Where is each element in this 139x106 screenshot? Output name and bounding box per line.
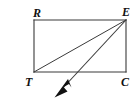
vertex-label-t: T [25, 76, 32, 88]
figure-drawing [0, 0, 139, 106]
vertex-label-r: R [33, 7, 41, 19]
vertex-label-e: E [122, 6, 130, 18]
vertex-label-c: C [121, 76, 129, 88]
geometry-figure: 47. R E C T [0, 0, 139, 106]
figure-background [0, 0, 139, 106]
